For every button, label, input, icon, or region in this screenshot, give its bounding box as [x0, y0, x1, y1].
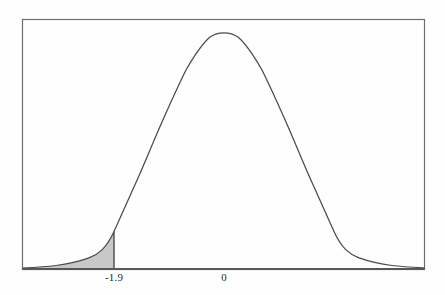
x-tick-label-center: 0	[221, 272, 227, 283]
plot-frame	[23, 20, 425, 270]
normal-curve	[23, 33, 425, 268]
distribution-plot	[0, 0, 445, 295]
normal-distribution-figure: -1.9 0	[0, 0, 445, 295]
x-tick-label-critical-value: -1.9	[105, 272, 123, 283]
